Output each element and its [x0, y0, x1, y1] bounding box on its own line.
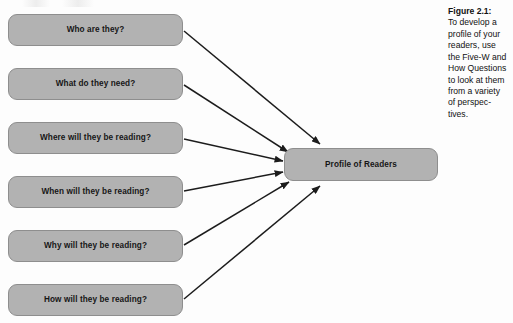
arrow-why-to-center	[184, 182, 289, 245]
question-box-how[interactable]: How will they be reading?	[8, 284, 183, 316]
question-label: Why will they be reading?	[44, 241, 147, 250]
figure-container: Who are they? What do they need? Where w…	[0, 0, 513, 323]
question-label: Who are they?	[67, 25, 125, 34]
question-label: When will they be reading?	[41, 187, 149, 196]
question-box-what[interactable]: What do they need?	[8, 68, 183, 100]
question-label: Where will they be reading?	[40, 133, 151, 142]
figure-caption-body: To develop a profile of your readers, us…	[448, 17, 508, 120]
question-box-who[interactable]: Who are they?	[8, 14, 183, 46]
arrow-how-to-center	[184, 186, 320, 299]
question-box-when[interactable]: When will they be reading?	[8, 176, 183, 208]
center-node-label: Profile of Readers	[325, 160, 397, 169]
question-box-where[interactable]: Where will they be reading?	[8, 122, 183, 154]
question-label: How will they be reading?	[44, 295, 147, 304]
question-label: What do they need?	[56, 79, 136, 88]
arrow-who-to-center	[184, 31, 320, 144]
question-box-why[interactable]: Why will they be reading?	[8, 230, 183, 262]
figure-caption: Figure 2.1: To develop a profile of your…	[448, 6, 508, 120]
figure-caption-title: Figure 2.1:	[448, 6, 508, 17]
arrow-when-to-center	[184, 172, 283, 191]
arrow-where-to-center	[184, 139, 283, 161]
center-node-profile-of-readers[interactable]: Profile of Readers	[284, 148, 438, 181]
